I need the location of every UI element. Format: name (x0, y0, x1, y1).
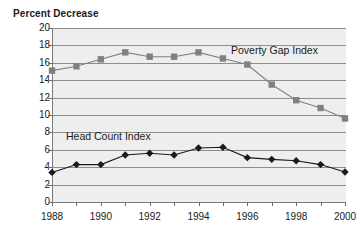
series-poverty-gap-index (49, 49, 348, 122)
data-point-diamond (341, 168, 348, 175)
data-point-diamond (97, 161, 104, 168)
data-point-square (244, 61, 250, 67)
data-point-square (122, 49, 128, 55)
data-point-square (171, 54, 177, 60)
data-point-square (220, 55, 226, 61)
data-point-diamond (292, 157, 299, 164)
series-head-count-index (48, 143, 348, 176)
data-point-diamond (195, 144, 202, 151)
data-point-diamond (219, 143, 226, 150)
data-point-diamond (170, 151, 177, 158)
data-point-square (98, 56, 104, 62)
data-point-diamond (122, 151, 129, 158)
data-point-square (195, 49, 201, 55)
data-point-square (73, 63, 79, 69)
data-point-diamond (244, 154, 251, 161)
data-point-square (317, 105, 323, 111)
data-point-diamond (317, 161, 324, 168)
series-label-poverty-gap-index: Poverty Gap Index (231, 44, 318, 56)
data-point-square (49, 67, 55, 73)
series-layer (0, 0, 358, 235)
series-line (52, 52, 345, 118)
data-point-square (293, 97, 299, 103)
data-point-diamond (73, 161, 80, 168)
chart-container: Percent Decrease 20181614121086420 19881… (0, 0, 358, 235)
data-point-square (342, 115, 348, 121)
data-point-square (146, 54, 152, 60)
data-point-square (269, 81, 275, 87)
data-point-diamond (48, 169, 55, 176)
data-point-diamond (146, 150, 153, 157)
data-point-diamond (268, 156, 275, 163)
series-label-head-count-index: Head Count Index (66, 130, 151, 142)
